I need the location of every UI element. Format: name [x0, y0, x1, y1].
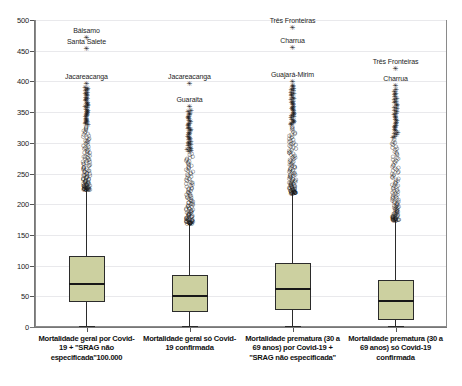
y-axis-tick-label: 350: [17, 108, 29, 117]
x-axis-category-label: Mortalidade geral por Covid-19 + "SRAG n…: [37, 334, 136, 362]
x-axis-category-label: Mortalidade prematura (30 a 69 anos) só …: [346, 334, 445, 362]
outlier-label: Jacareacanga: [65, 73, 108, 80]
y-axis-tick-label: 400: [17, 77, 29, 86]
y-gridline: [36, 143, 446, 144]
lower-whisker: [86, 302, 88, 326]
labelled-outlier-marker: ✳: [290, 24, 296, 31]
outlier-label: Guajará-Mirim: [271, 71, 314, 78]
upper-whisker: [292, 193, 294, 264]
x-axis-line: [30, 327, 447, 328]
y-gridline: [36, 20, 446, 21]
outlier-label: Bálsamo: [73, 27, 100, 34]
labelled-outlier-marker: ✳: [290, 44, 296, 51]
y-axis-tick-label: 100: [17, 261, 29, 270]
outlier-marker: ○: [396, 164, 400, 169]
lower-whisker: [395, 320, 397, 327]
y-axis-tick-label: 150: [17, 230, 29, 239]
box-iqr-rect: [69, 256, 105, 302]
labelled-outlier-marker: ✳: [84, 46, 90, 53]
y-axis-tick-label: 0: [25, 323, 29, 332]
upper-whisker: [395, 220, 397, 280]
y-axis-tick-label: 300: [17, 138, 29, 147]
y-gridline: [36, 112, 446, 113]
labelled-outlier-marker: ✳: [393, 66, 399, 73]
labelled-outlier-marker: ✳: [393, 83, 399, 90]
y-axis-tick-mark: [30, 20, 34, 21]
outlier-label: Jacareacanga: [168, 73, 211, 80]
y-axis-tick-mark: [30, 51, 34, 52]
y-axis-tick-mark: [30, 112, 34, 113]
y-gridline: [36, 204, 446, 205]
median-line: [172, 295, 208, 297]
x-axis-category-label: Mortalidade geral só Covid-19 confirmada: [140, 334, 239, 353]
outlier-label: Charrua: [280, 37, 305, 44]
y-axis-tick-mark: [30, 235, 34, 236]
y-gridline: [36, 174, 446, 175]
y-axis-tick-mark: [30, 266, 34, 267]
y-axis-tick-label: 250: [17, 169, 29, 178]
labelled-outlier-marker: ✳: [290, 79, 296, 86]
y-axis-tick-label: 50: [21, 292, 29, 301]
boxplot-chart: 050100150200250300350400450500○○○○○○○○○○…: [0, 0, 462, 386]
outlier-label: Charrua: [383, 75, 408, 82]
median-line: [378, 300, 414, 302]
upper-whisker: [86, 189, 88, 257]
labelled-outlier-marker: ✳: [187, 80, 193, 87]
outlier-label: Santa Salete: [67, 38, 106, 45]
outlier-label: Três Fronteiras: [270, 17, 316, 24]
labelled-outlier-marker: ✳: [187, 104, 193, 111]
outlier-marker: ○: [191, 169, 195, 174]
y-axis-tick-label: 200: [17, 200, 29, 209]
y-axis-tick-mark: [30, 296, 34, 297]
labelled-outlier-marker: ✳: [84, 80, 90, 87]
upper-whisker: [189, 223, 191, 276]
outlier-marker: ○: [396, 176, 400, 181]
y-axis-tick-label: 500: [17, 16, 29, 25]
median-line: [275, 288, 311, 290]
y-axis-tick-mark: [30, 204, 34, 205]
box-iqr-rect: [172, 275, 208, 311]
outlier-label: Três Fronteiras: [373, 58, 419, 65]
y-gridline: [36, 51, 446, 52]
y-axis-tick-mark: [30, 174, 34, 175]
box-iqr-rect: [275, 263, 311, 310]
y-gridline: [36, 235, 446, 236]
outlier-label: Guaraita: [176, 96, 202, 103]
y-axis-tick-label: 450: [17, 46, 29, 55]
y-axis-tick-mark: [30, 81, 34, 82]
lower-whisker: [189, 312, 191, 327]
lower-whisker: [292, 310, 294, 327]
y-axis-tick-mark: [30, 143, 34, 144]
x-axis-category-label: Mortalidade prematura (30 a 69 anos) por…: [243, 334, 342, 362]
median-line: [69, 283, 105, 285]
